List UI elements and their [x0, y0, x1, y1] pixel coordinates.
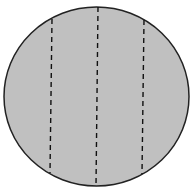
circle [4, 7, 189, 186]
circle-diagram [0, 0, 193, 193]
